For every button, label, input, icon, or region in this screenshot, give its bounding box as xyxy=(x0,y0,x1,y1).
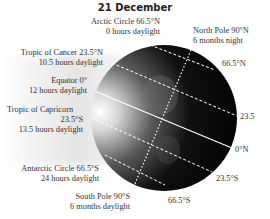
arctic-daylight: 0 hours daylight xyxy=(80,27,160,37)
right-label-66s: 66.5°S xyxy=(168,196,190,206)
right-label-23n: 23.5 xyxy=(240,112,255,122)
south-pole-latitude: South Pole 90°S xyxy=(40,192,130,202)
label-tropic-of-capricorn: Tropic of Capricorn 23.5°S 13.5 hours da… xyxy=(0,105,83,135)
label-arctic-circle: Arctic Circle 66.5°N 0 hours daylight xyxy=(80,17,160,37)
antarctic-daylight: 24 hours daylight xyxy=(0,174,99,184)
label-north-pole: North Pole 90°N 6 months night xyxy=(193,26,249,46)
label-equator: Equator 0° 12 hours daylight xyxy=(0,76,87,96)
cancer-latitude: Tropic of Cancer 23.5°N xyxy=(0,48,103,58)
equator-latitude: Equator 0° xyxy=(0,76,87,86)
right-label-23s: 23.5°S xyxy=(216,174,238,184)
capricorn-name: Tropic of Capricorn xyxy=(0,105,83,115)
antarctic-latitude: Antarctic Circle 66.5°S xyxy=(0,164,99,174)
arctic-latitude: Arctic Circle 66.5°N xyxy=(80,17,160,27)
label-antarctic-circle: Antarctic Circle 66.5°S 24 hours dayligh… xyxy=(0,164,99,184)
cancer-daylight: 10.5 hours daylight xyxy=(0,58,103,68)
south-pole-daylight: 6 months daylight xyxy=(40,202,130,212)
north-pole-daylight: 6 months night xyxy=(193,36,249,46)
right-label-equator: 0°N xyxy=(235,145,248,155)
label-tropic-of-cancer: Tropic of Cancer 23.5°N 10.5 hours dayli… xyxy=(0,48,103,68)
equator-daylight: 12 hours daylight xyxy=(0,86,87,96)
capricorn-latitude: 23.5°S xyxy=(0,115,83,125)
north-pole-latitude: North Pole 90°N xyxy=(193,26,249,36)
label-south-pole: South Pole 90°S 6 months daylight xyxy=(40,192,130,212)
capricorn-daylight: 13.5 hours daylight xyxy=(0,125,83,135)
right-label-66n: 66.5°N xyxy=(222,59,246,69)
